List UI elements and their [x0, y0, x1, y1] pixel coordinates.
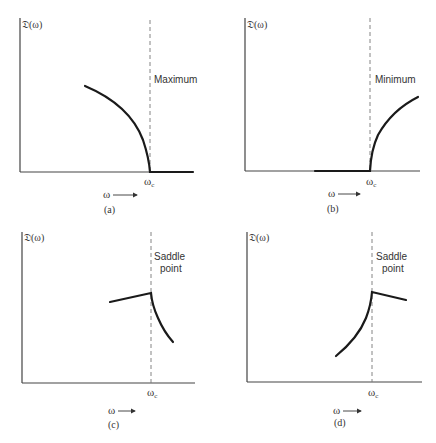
density-curve	[85, 86, 193, 172]
density-curve	[110, 293, 173, 342]
annotation-label-line1: Saddle	[376, 251, 408, 262]
panel-caption: (b)	[327, 203, 339, 215]
y-axis-label: 𝔇(ω)	[249, 232, 269, 244]
x-axis-label: ω	[328, 187, 335, 199]
panel-caption: (d)	[334, 417, 346, 429]
y-axis-label: 𝔇(ω)	[247, 19, 267, 31]
density-curve	[336, 292, 406, 356]
annotation-label-line2: point	[382, 263, 404, 274]
panel-caption: (c)	[108, 419, 119, 431]
density-curve	[315, 97, 418, 171]
annotation-label: Minimum	[375, 74, 416, 85]
x-axis-label: ω	[108, 404, 115, 416]
critical-frequency-label: ωc	[144, 175, 154, 189]
critical-frequency-label: ωc	[366, 175, 376, 189]
critical-frequency-label: ωc	[147, 386, 157, 400]
y-axis-label: 𝔇(ω)	[24, 232, 44, 244]
critical-frequency-label: ωc	[368, 386, 378, 400]
panel-d: 𝔇(ω) Saddle point ωc ω (d)	[247, 232, 422, 429]
x-axis-label: ω	[333, 404, 340, 416]
panel-a: 𝔇(ω) Maximum ωc ω (a)	[20, 18, 197, 216]
panel-caption: (a)	[104, 204, 115, 216]
y-axis-label: 𝔇(ω)	[22, 19, 42, 31]
annotation-label-line1: Saddle	[154, 251, 186, 262]
figure-canvas: 𝔇(ω) Maximum ωc ω (a) 𝔇(ω) Minimum ωc ω …	[0, 0, 436, 443]
x-axis-label: ω	[103, 188, 110, 200]
panel-b: 𝔇(ω) Minimum ωc ω (b)	[245, 18, 420, 215]
panel-c: 𝔇(ω) Saddle point ωc ω (c)	[22, 232, 195, 431]
annotation-label-line2: point	[160, 263, 182, 274]
annotation-label: Maximum	[154, 74, 197, 85]
